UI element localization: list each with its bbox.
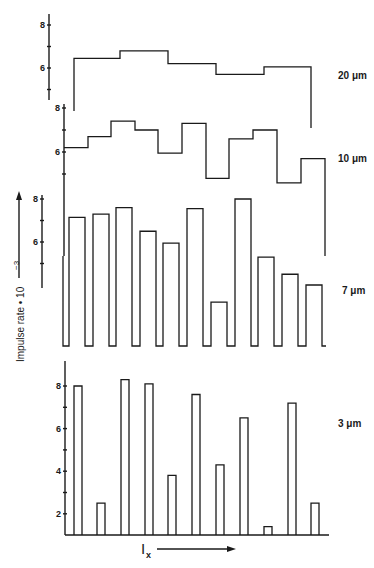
panel-10um [62, 104, 325, 256]
bar-3um [216, 465, 224, 535]
trace-20um [74, 51, 311, 128]
tick-label-7-8: 8 [33, 194, 38, 204]
tick-label-7-6: 6 [33, 237, 38, 247]
tick-label-20-8: 8 [40, 20, 45, 30]
tick-label-20-6: 6 [40, 63, 45, 73]
x-axis-label: I [141, 540, 145, 557]
panel-20um [47, 14, 311, 128]
panel-label-10um: 10 μm [338, 153, 367, 164]
bar-3um [121, 380, 129, 535]
tick-label-3-6: 6 [56, 424, 61, 434]
tick-label-10-8: 8 [55, 103, 60, 113]
panel-label-20um: 20 μm [338, 70, 367, 81]
trace-10um [64, 121, 325, 256]
bar-3um [240, 418, 248, 535]
panel-7um [40, 195, 326, 346]
x-axis-arrow-head-icon [227, 546, 236, 552]
trace-7um [63, 199, 326, 346]
y-axis-label-text: Impulse rate • 10 [15, 286, 26, 362]
tick-label-10-6: 6 [55, 147, 60, 157]
tick-label-3-4: 4 [56, 466, 61, 476]
panel-3um [63, 361, 329, 535]
y-axis-arrow-head-icon [16, 191, 22, 200]
bar-3um [145, 384, 153, 535]
bar-3um [192, 395, 200, 535]
panel-label-7um: 7 μm [342, 285, 365, 296]
x-axis-label-subscript: x [146, 550, 151, 560]
bar-3um [168, 475, 176, 535]
panel-label-3um: 3 μm [338, 418, 361, 429]
tick-label-3-8: 8 [56, 381, 61, 391]
impulse-rate-chart: Impulse rate • 10 −3 8 6 8 6 8 6 8 6 4 2… [0, 0, 374, 568]
tick-label-3-2: 2 [56, 509, 61, 519]
bar-3um [264, 527, 272, 535]
bar-3um [311, 503, 319, 535]
bar-3um [288, 403, 296, 535]
bar-3um [97, 503, 105, 535]
bar-3um [74, 386, 82, 535]
